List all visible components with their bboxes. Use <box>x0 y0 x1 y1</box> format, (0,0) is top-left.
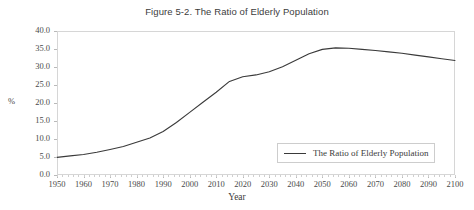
x-minor-tick-mark <box>184 175 185 177</box>
y-tick-label: 30.0 <box>6 61 50 71</box>
x-minor-tick-mark <box>423 175 424 177</box>
x-minor-tick-mark <box>243 175 244 177</box>
x-minor-tick-mark <box>333 175 334 177</box>
x-minor-tick-mark <box>99 175 100 177</box>
x-minor-tick-mark <box>147 175 148 177</box>
x-minor-tick-mark <box>68 175 69 177</box>
x-minor-tick-mark <box>131 175 132 177</box>
y-tick-mark <box>54 157 57 158</box>
x-minor-tick-mark <box>428 175 429 177</box>
x-minor-tick-mark <box>78 175 79 177</box>
x-minor-tick-mark <box>444 175 445 177</box>
y-tick-mark <box>54 139 57 140</box>
x-minor-tick-mark <box>391 175 392 177</box>
page-title: Figure 5-2. The Ratio of Elderly Populat… <box>0 6 474 17</box>
y-tick-label: 40.0 <box>6 25 50 35</box>
x-minor-tick-mark <box>137 175 138 177</box>
x-minor-tick-mark <box>322 175 323 177</box>
y-tick-mark <box>54 49 57 50</box>
x-minor-tick-mark <box>359 175 360 177</box>
x-minor-tick-mark <box>285 175 286 177</box>
x-minor-tick-mark <box>349 175 350 177</box>
x-minor-tick-mark <box>344 175 345 177</box>
x-minor-tick-mark <box>259 175 260 177</box>
y-tick-label: 10.0 <box>6 133 50 143</box>
x-minor-tick-mark <box>301 175 302 177</box>
x-minor-tick-mark <box>195 175 196 177</box>
x-minor-tick-mark <box>455 175 456 177</box>
x-minor-tick-mark <box>275 175 276 177</box>
x-minor-tick-mark <box>179 175 180 177</box>
x-minor-tick-mark <box>290 175 291 177</box>
chart-legend: The Ratio of Elderly Population <box>277 143 435 163</box>
x-minor-tick-mark <box>413 175 414 177</box>
y-tick-mark <box>54 103 57 104</box>
legend-line-swatch <box>284 153 306 154</box>
x-minor-tick-mark <box>62 175 63 177</box>
x-minor-tick-mark <box>375 175 376 177</box>
legend-item-label: The Ratio of Elderly Population <box>313 148 428 158</box>
x-minor-tick-mark <box>110 175 111 177</box>
x-minor-tick-mark <box>407 175 408 177</box>
x-minor-tick-mark <box>418 175 419 177</box>
x-minor-tick-mark <box>73 175 74 177</box>
x-minor-tick-mark <box>89 175 90 177</box>
y-tick-mark <box>54 31 57 32</box>
x-minor-tick-mark <box>370 175 371 177</box>
x-minor-tick-mark <box>306 175 307 177</box>
x-minor-tick-mark <box>450 175 451 177</box>
x-minor-tick-mark <box>206 175 207 177</box>
x-minor-tick-mark <box>121 175 122 177</box>
x-minor-tick-mark <box>174 175 175 177</box>
x-minor-tick-mark <box>94 175 95 177</box>
y-tick-mark <box>54 121 57 122</box>
x-minor-tick-mark <box>126 175 127 177</box>
x-minor-tick-mark <box>222 175 223 177</box>
x-minor-tick-mark <box>402 175 403 177</box>
y-tick-mark <box>54 85 57 86</box>
chart-figure: Figure 5-2. The Ratio of Elderly Populat… <box>0 0 474 210</box>
y-tick-label: 35.0 <box>6 43 50 53</box>
y-tick-label: 5.0 <box>6 151 50 161</box>
x-minor-tick-mark <box>434 175 435 177</box>
x-minor-tick-mark <box>142 175 143 177</box>
x-minor-tick-mark <box>190 175 191 177</box>
x-tick-label: 2100 <box>435 179 474 189</box>
x-minor-tick-mark <box>248 175 249 177</box>
y-tick-label: 15.0 <box>6 115 50 125</box>
x-minor-tick-mark <box>280 175 281 177</box>
y-tick-mark <box>54 67 57 68</box>
x-minor-tick-mark <box>269 175 270 177</box>
x-minor-tick-mark <box>439 175 440 177</box>
x-minor-tick-mark <box>168 175 169 177</box>
x-minor-tick-mark <box>158 175 159 177</box>
x-minor-tick-mark <box>296 175 297 177</box>
x-minor-tick-mark <box>115 175 116 177</box>
y-tick-label: 25.0 <box>6 79 50 89</box>
x-minor-tick-mark <box>253 175 254 177</box>
data-line-ratio-of-elderly-population <box>57 48 455 157</box>
x-minor-tick-mark <box>237 175 238 177</box>
x-minor-tick-mark <box>312 175 313 177</box>
x-axis-label: Year <box>0 192 474 202</box>
x-minor-tick-mark <box>216 175 217 177</box>
x-minor-tick-mark <box>84 175 85 177</box>
x-minor-tick-mark <box>397 175 398 177</box>
x-minor-tick-mark <box>354 175 355 177</box>
x-minor-tick-mark <box>105 175 106 177</box>
x-minor-tick-mark <box>211 175 212 177</box>
x-minor-tick-mark <box>328 175 329 177</box>
x-minor-tick-mark <box>338 175 339 177</box>
x-minor-tick-mark <box>264 175 265 177</box>
x-minor-tick-mark <box>386 175 387 177</box>
x-minor-tick-mark <box>381 175 382 177</box>
y-tick-label: 20.0 <box>6 97 50 107</box>
x-minor-tick-mark <box>57 175 58 177</box>
y-tick-label: 0.0 <box>6 169 50 179</box>
x-minor-tick-mark <box>365 175 366 177</box>
x-minor-tick-mark <box>163 175 164 177</box>
x-minor-tick-mark <box>227 175 228 177</box>
x-minor-tick-mark <box>317 175 318 177</box>
x-minor-tick-mark <box>153 175 154 177</box>
x-minor-tick-mark <box>200 175 201 177</box>
